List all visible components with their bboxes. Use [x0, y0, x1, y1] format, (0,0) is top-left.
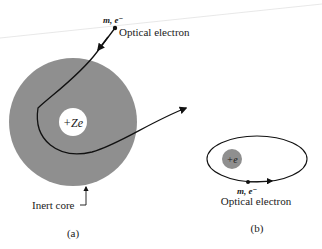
- panel-b-label: (b): [251, 222, 264, 235]
- panel-a-label: (a): [67, 227, 80, 240]
- diagram-canvas: +Ze m, e⁻ Optical electron Inert core (a…: [0, 0, 322, 249]
- electron-dot-a: [113, 26, 117, 30]
- electron-a-label: m, e⁻: [103, 15, 123, 25]
- core-pointer-arrow-icon: [80, 187, 86, 205]
- incoming-arrow-icon: [98, 37, 108, 50]
- electron-a-caption: Optical electron: [119, 26, 190, 38]
- electron-b-caption: Optical electron: [221, 195, 292, 207]
- electron-dot-b: [246, 180, 250, 184]
- nucleus-b-label: +e: [226, 154, 238, 165]
- panel-b: +e m, e⁻ Optical electron (b): [207, 136, 307, 235]
- core-label: Inert core: [32, 199, 75, 211]
- nucleus-a-label: +Ze: [63, 116, 84, 130]
- panel-a: +Ze m, e⁻ Optical electron Inert core (a…: [9, 15, 190, 240]
